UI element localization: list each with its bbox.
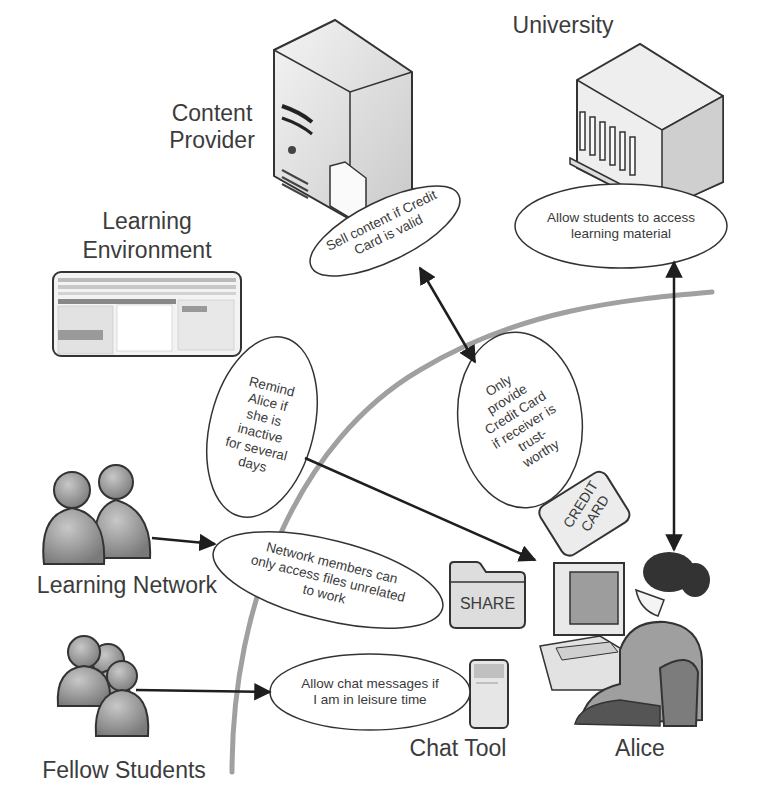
arrow-network	[152, 538, 215, 544]
policy-text-university: Allow students to access learning materi…	[521, 210, 721, 242]
diagram-canvas: Content Provider University Learning Env…	[0, 0, 774, 808]
label-alice: Alice	[600, 735, 680, 762]
server-icon	[274, 20, 412, 222]
label-learning-network: Learning Network	[22, 572, 232, 599]
arrow-chat	[136, 690, 270, 692]
label-content-provider: Content Provider	[152, 100, 272, 154]
policy-text-chat: Allow chat messages if I am in leisure t…	[280, 676, 460, 708]
people-group-icon	[43, 465, 150, 564]
label-learning-environment-2: Environment	[62, 237, 232, 264]
label-chat-tool: Chat Tool	[398, 735, 518, 762]
people-group-icon	[58, 636, 149, 736]
chat-device-icon	[470, 660, 508, 728]
user-at-computer-icon	[540, 552, 710, 726]
app-window-icon	[53, 272, 241, 356]
label-fellow-students: Fellow Students	[24, 757, 224, 784]
arrow-content-credit	[420, 268, 475, 362]
label-university: University	[498, 12, 628, 39]
label-share: SHARE	[450, 594, 525, 614]
label-learning-environment-1: Learning	[72, 208, 222, 235]
